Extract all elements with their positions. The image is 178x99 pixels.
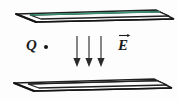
field-label: E — [118, 38, 128, 53]
top-plate — [16, 10, 174, 22]
bottom-plate — [14, 79, 172, 91]
field-arrow-group — [73, 36, 104, 67]
point-charge-dot — [44, 45, 48, 49]
field-arrow-2 — [85, 36, 92, 67]
field-arrow-3 — [97, 36, 104, 67]
field-arrow-1 — [73, 36, 80, 67]
capacitor-figure: Q E — [0, 0, 178, 99]
charge-label: Q — [26, 38, 37, 53]
